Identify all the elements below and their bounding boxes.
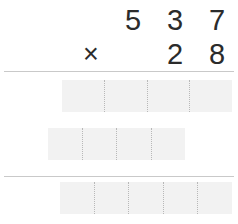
multiplier-digit-ones: 8 xyxy=(196,36,238,72)
multiplicand-digit-tens: 3 xyxy=(154,2,196,38)
multiplicand-row: 5 3 7 xyxy=(0,2,238,38)
multiplicand-digit-hundreds: 5 xyxy=(112,2,154,38)
final-total-cell-0[interactable] xyxy=(60,182,95,214)
partial-product-row-2[interactable] xyxy=(48,128,185,160)
operand-divider-rule xyxy=(4,71,234,72)
final-total-cell-3[interactable] xyxy=(164,182,199,214)
partial-product-row-1[interactable] xyxy=(62,80,232,112)
multiplicand-digit-ones: 7 xyxy=(196,2,238,38)
total-divider-rule xyxy=(4,176,234,177)
multiplier-digit-tens: 2 xyxy=(154,36,196,72)
multiplier-row: × 2 8 xyxy=(0,36,238,72)
final-total-cell-2[interactable] xyxy=(129,182,164,214)
partial-product-1-cell-3[interactable] xyxy=(190,80,232,112)
final-total-row[interactable] xyxy=(60,182,232,214)
partial-product-2-cell-2[interactable] xyxy=(117,128,152,160)
partial-product-2-cell-3[interactable] xyxy=(152,128,186,160)
partial-product-2-cell-1[interactable] xyxy=(83,128,118,160)
long-multiplication-worksheet: 5 3 7 × 2 8 xyxy=(0,0,238,224)
partial-product-1-cell-1[interactable] xyxy=(105,80,148,112)
partial-product-1-cell-0[interactable] xyxy=(62,80,105,112)
partial-product-1-cell-2[interactable] xyxy=(148,80,191,112)
multiplication-operator-icon: × xyxy=(70,36,112,72)
final-total-cell-1[interactable] xyxy=(95,182,130,214)
partial-product-2-cell-0[interactable] xyxy=(48,128,83,160)
final-total-cell-4[interactable] xyxy=(198,182,232,214)
